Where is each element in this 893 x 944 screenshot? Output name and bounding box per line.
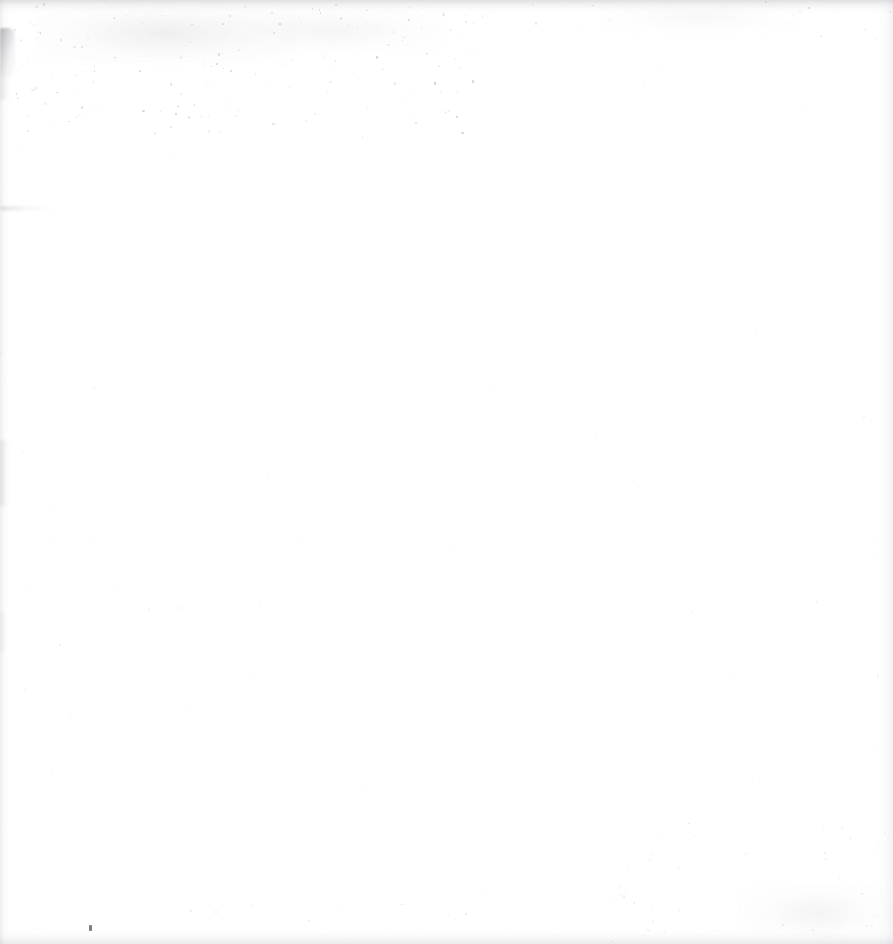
- page-body-text: [70, 80, 71, 81]
- footer-region: [70, 880, 830, 930]
- scanned-page: [0, 0, 893, 944]
- header-text: [70, 20, 71, 21]
- left-edge-band: [0, 0, 9, 944]
- page-number: [70, 880, 71, 881]
- bottom-edge-band: [0, 928, 893, 944]
- text-block-region: [70, 80, 830, 870]
- top-edge-band: [0, 0, 893, 13]
- header-region: [70, 20, 830, 70]
- right-edge-band: [877, 0, 893, 944]
